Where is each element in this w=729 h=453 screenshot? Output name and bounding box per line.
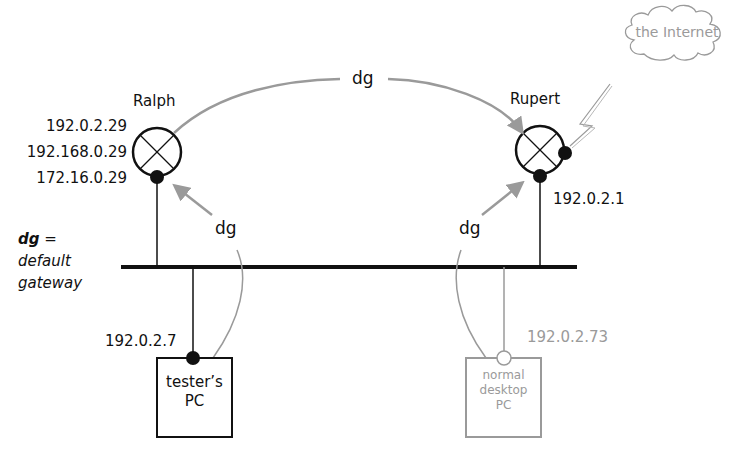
ralph-ip-3: 172.16.0.29 — [36, 171, 127, 186]
legend-line-2: gateway — [18, 272, 82, 294]
tester-pc-port-icon — [186, 351, 200, 365]
dg-arrow-to-ralph — [175, 186, 212, 215]
rupert-ip: 192.0.2.1 — [553, 192, 625, 207]
dg-arrow-ralph-to-rupert-head — [388, 79, 522, 132]
legend-abbr: dg — [18, 230, 39, 248]
desktop-pc-line-1: normal — [466, 368, 541, 383]
legend-equals: = — [44, 230, 57, 248]
internet-label: the Internet — [635, 25, 719, 39]
dg-arrow-to-rupert — [482, 183, 522, 215]
desktop-pc-line-3: PC — [466, 398, 541, 413]
tester-pc-line-1: tester’s — [157, 373, 232, 392]
legend-line-1: default — [18, 250, 82, 272]
ralph-router-icon — [133, 128, 181, 184]
dg-label-left: dg — [215, 220, 237, 237]
ralph-ip-1: 192.0.2.29 — [46, 119, 127, 134]
ralph-name: Ralph — [133, 94, 175, 109]
tester-ip: 192.0.2.7 — [105, 334, 177, 349]
desktop-pc-port-icon — [497, 351, 511, 365]
legend: dg = default gateway — [18, 228, 82, 294]
dg-arrow-ralph-to-rupert — [174, 79, 340, 133]
desktop-pc-label: normal desktop PC — [466, 368, 541, 413]
desktop-pc-line-2: desktop — [466, 383, 541, 398]
ralph-ip-2: 192.168.0.29 — [27, 145, 127, 160]
tester-pc-label: tester’s PC — [157, 373, 232, 411]
rupert-name: Rupert — [510, 92, 560, 107]
rupert-router-icon — [516, 126, 572, 183]
dg-label-right: dg — [459, 220, 481, 237]
desktop-ip: 192.0.2.73 — [527, 330, 608, 345]
wan-lightning-icon — [570, 84, 610, 146]
tester-pc-line-2: PC — [157, 392, 232, 411]
dg-label-top: dg — [352, 70, 374, 87]
